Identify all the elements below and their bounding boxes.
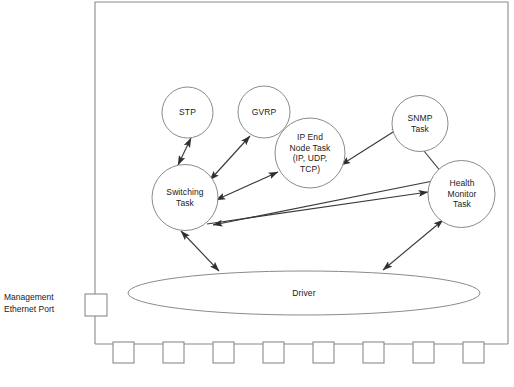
- front-port-box: [163, 342, 184, 363]
- edge-switching-gvrp: [210, 136, 250, 180]
- front-port-box: [463, 342, 484, 363]
- front-port-box: [213, 342, 234, 363]
- management-ethernet-port-box: [85, 294, 107, 316]
- front-panel-ports: [113, 342, 484, 363]
- front-port-box: [113, 342, 134, 363]
- node-circle-switching: [152, 165, 218, 231]
- front-port-box: [263, 342, 284, 363]
- front-port-box: [363, 342, 384, 363]
- diagram-canvas: STP GVRP IP End Node Task (IP, UDP, TCP)…: [0, 0, 514, 387]
- node-circle-gvrp: [238, 86, 290, 138]
- edge-health-monitor-switching-inbound: [213, 180, 438, 225]
- front-port-box: [413, 342, 434, 363]
- diagram-vector-layer: [0, 0, 514, 387]
- edge-ip-end-node-snmp: [341, 127, 401, 165]
- edge-switching-driver: [181, 231, 219, 271]
- node-circle-stp: [162, 87, 213, 138]
- node-circle-health-monitor: [428, 161, 495, 228]
- edge-switching-ip-end-node: [216, 172, 278, 200]
- management-ethernet-port-label: Management Ethernet Port: [4, 292, 82, 315]
- node-circle-ip-end-node: [275, 118, 345, 188]
- front-port-box: [313, 342, 334, 363]
- node-circle-snmp: [392, 96, 448, 152]
- driver-ellipse: [128, 271, 480, 315]
- edge-health-monitor-driver: [383, 220, 443, 270]
- edge-switching-stp: [178, 138, 191, 165]
- task-node-circles: [152, 86, 495, 231]
